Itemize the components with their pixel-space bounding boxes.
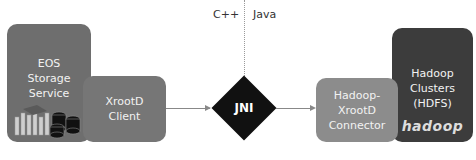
eos-label-line1: EOS (38, 56, 61, 71)
eos-label-line3: Service (29, 86, 70, 101)
eos-label-line2: Storage (27, 71, 70, 86)
hadoop-label-line2: Clusters (410, 81, 455, 96)
hadoop-clusters-box: Hadoop Clusters (HDFS) hadoop (392, 28, 473, 142)
arrow-jni-to-connector (276, 108, 312, 109)
cpp-label: C++ (213, 8, 239, 21)
jni-diamond: JNI (212, 76, 276, 140)
database-icon (50, 112, 80, 138)
arrow-client-to-jni (166, 108, 210, 109)
hadoop-label-line1: Hadoop (411, 66, 453, 81)
hadoop-label-line3: (HDFS) (413, 96, 451, 111)
java-label: Java (253, 8, 276, 21)
storage-server-icon (13, 103, 85, 139)
connector-label-line2: XrootD (338, 103, 376, 118)
xrootd-client-box: XrootD Client (83, 76, 166, 142)
arrowhead-icon (205, 105, 211, 111)
xrootd-label-line2: Client (109, 109, 141, 124)
jni-label: JNI (212, 76, 276, 140)
hadoop-logo-icon: hadoop (402, 119, 464, 134)
connector-label-line1: Hadoop- (334, 88, 380, 103)
hadoop-xrootd-connector-box: Hadoop- XrootD Connector (316, 78, 398, 142)
xrootd-label-line1: XrootD (105, 94, 143, 109)
connector-label-line3: Connector (329, 118, 386, 133)
eos-storage-service-box: EOS Storage Service (7, 24, 91, 142)
